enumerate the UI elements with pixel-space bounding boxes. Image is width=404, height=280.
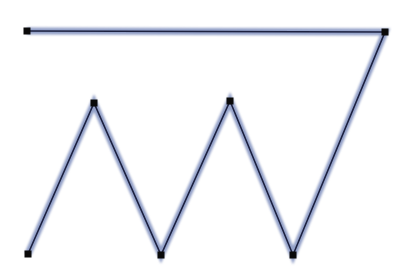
vertex-handle-7[interactable]	[25, 251, 32, 258]
vertex-handle-3[interactable]	[290, 252, 297, 259]
polyline-drawing[interactable]	[0, 0, 404, 280]
vertex-handle-5[interactable]	[158, 252, 165, 259]
polyline-path[interactable]	[27, 31, 385, 255]
selection-halo	[27, 31, 385, 255]
vertex-handle-1[interactable]	[24, 28, 31, 35]
vertex-handle-4[interactable]	[227, 98, 234, 105]
drawing-canvas[interactable]	[0, 0, 404, 280]
vertex-handle-6[interactable]	[91, 100, 98, 107]
vertex-handle-2[interactable]	[382, 29, 389, 36]
